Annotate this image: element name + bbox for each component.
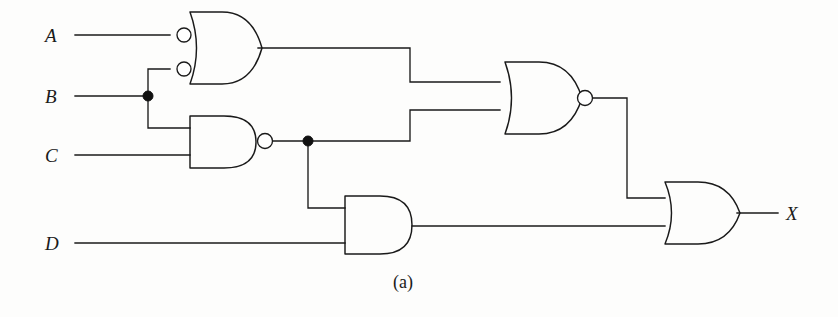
- input-label-a: A: [45, 26, 57, 45]
- bubble-g1-input-a: [177, 28, 191, 42]
- input-label-d: D: [45, 234, 59, 253]
- gate-g4-and-body: [345, 196, 412, 254]
- junction-b-fanout: [143, 91, 153, 101]
- gate-g3-nor-body: [505, 62, 582, 134]
- bubble-g2-output: [258, 134, 273, 149]
- wire-g1-out-to-g3: [258, 48, 500, 82]
- figure-caption: (a): [393, 272, 413, 293]
- gate-g1-or-body: [190, 12, 262, 84]
- circuit-diagram-svg: [0, 0, 838, 317]
- wire-junction-to-g3: [308, 110, 500, 141]
- output-label-x: X: [786, 204, 798, 223]
- input-label-c: C: [45, 146, 58, 165]
- wire-junction-down-to-g4: [308, 141, 345, 208]
- bubble-g3-output: [578, 91, 593, 106]
- gate-g2-nand-body: [190, 116, 256, 168]
- wire-b-down-to-g2: [148, 96, 190, 128]
- junction-nand-fanout: [303, 136, 313, 146]
- logic-circuit-figure: ABCDX (a): [0, 0, 838, 317]
- gate-g5-or-body: [665, 182, 740, 244]
- bubble-g1-input-b: [177, 62, 191, 76]
- inversion-bubbles-layer: [177, 28, 593, 149]
- wire-junctions-layer: [143, 91, 313, 146]
- wire-g3-out-to-g5: [591, 98, 665, 198]
- input-label-b: B: [45, 87, 57, 106]
